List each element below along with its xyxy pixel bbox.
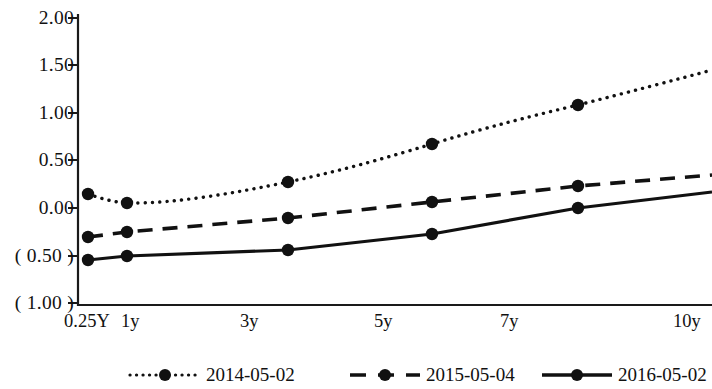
series-markers-2014 bbox=[82, 99, 584, 209]
y-tick-label: 0.00 bbox=[2, 198, 74, 218]
y-tick-label: 0.50 bbox=[2, 150, 74, 170]
y-tick-label: ( 0.50 ) bbox=[2, 246, 74, 266]
legend-swatch-solid-icon bbox=[540, 365, 614, 385]
x-tick-label-3y: 3y bbox=[240, 312, 259, 331]
y-tick-label: ( 1.00 ) bbox=[2, 293, 74, 313]
legend-item-2014[interactable]: 2014-05-02 bbox=[128, 360, 295, 389]
legend-item-2015[interactable]: 2015-05-04 bbox=[348, 360, 515, 389]
x-tick-label-7y: 7y bbox=[500, 312, 519, 331]
legend-swatch-dotted-icon bbox=[128, 365, 202, 385]
legend-label-2015: 2015-05-04 bbox=[426, 365, 515, 384]
y-tick-label: 1.00 bbox=[2, 103, 74, 123]
legend-swatch-dashed-icon bbox=[348, 365, 422, 385]
x-tick-label-5y: 5y bbox=[374, 312, 393, 331]
yield-curve-chart: 2.00 1.50 1.00 0.50 0.00 ( 0.50 ) ( 1.00… bbox=[0, 0, 712, 389]
legend-label-2014: 2014-05-02 bbox=[206, 365, 295, 384]
x-tick-label-10y: 10y bbox=[673, 312, 701, 331]
series-line-2016 bbox=[88, 192, 712, 260]
y-tick-label: 1.50 bbox=[2, 55, 74, 75]
series-markers-2016 bbox=[82, 202, 584, 266]
x-tick-label-1y: 1y bbox=[121, 312, 140, 331]
chart-legend: 2014-05-02 2015-05-04 2016-05-02 bbox=[0, 360, 712, 389]
series-line-2015 bbox=[88, 175, 712, 237]
legend-item-2016[interactable]: 2016-05-02 bbox=[540, 360, 707, 389]
axis-frame bbox=[78, 14, 712, 305]
series-markers-2015 bbox=[82, 180, 584, 243]
legend-label-2016: 2016-05-02 bbox=[618, 365, 707, 384]
y-tick-label: 2.00 bbox=[2, 8, 74, 28]
x-tick-label-0-25y: 0.25Y bbox=[64, 312, 110, 331]
